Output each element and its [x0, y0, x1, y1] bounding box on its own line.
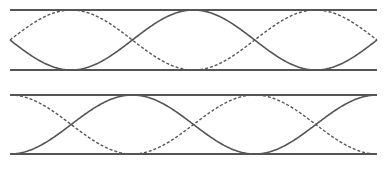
panel-top-dashed-wave	[10, 10, 377, 70]
panel-top	[10, 10, 377, 70]
standing-wave-diagram	[0, 0, 389, 170]
panel-bottom-dashed-wave	[10, 95, 377, 154]
panel-bottom	[10, 95, 377, 154]
panel-top-solid-wave	[10, 10, 377, 70]
